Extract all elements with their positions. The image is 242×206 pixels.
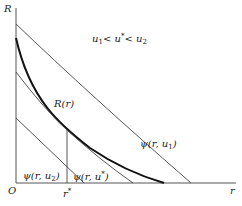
psi-u1-label: ψ(r, u1) <box>140 139 177 151</box>
diagram-canvas: R O r r* u1< u*< u2 R(r) ψ(r, u1) ψ(r, u… <box>0 0 242 206</box>
r-star-label: r* <box>63 188 71 199</box>
lt1: < <box>103 33 111 44</box>
psi-u1-suffix: ) <box>173 138 177 149</box>
psi-ustar-suffix: ) <box>105 171 109 182</box>
psi-u2-label: ψ(r, u2) <box>23 171 60 183</box>
origin-label: O <box>8 186 16 196</box>
psi-ustar-prefix: ψ(r, u <box>73 171 101 182</box>
condition-label: u1< u*< u2 <box>92 33 147 46</box>
psi-ustar-label: ψ(r, u*) <box>73 171 109 182</box>
u2-sub: 2 <box>142 38 146 46</box>
psi-u1-prefix: ψ(r, u <box>140 138 168 149</box>
R-curve <box>16 38 164 183</box>
y-axis-label: R <box>4 4 12 14</box>
x-axis-label: r <box>230 186 235 196</box>
R-curve-label: R(r) <box>54 99 74 109</box>
lt2: < <box>124 33 132 44</box>
psi-u1-curve <box>16 24 191 183</box>
psi-u2-prefix: ψ(r, u <box>23 170 51 181</box>
psi-u2-suffix: ) <box>56 170 60 181</box>
r-star-sup: * <box>68 187 72 195</box>
